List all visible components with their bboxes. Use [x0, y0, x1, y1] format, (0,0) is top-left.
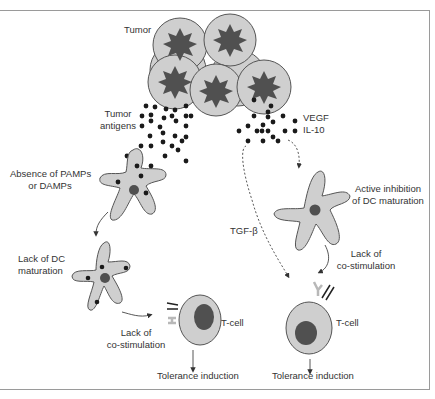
- label-lack-dc-line1: Lack of DC: [18, 253, 65, 265]
- label-vegf-il10: VEGF IL-10: [303, 112, 329, 136]
- label-tumor-antigens: Tumor antigens: [96, 108, 140, 132]
- dendritic-cell-lower-left: [72, 242, 130, 310]
- label-tcell-right: T-cell: [336, 317, 359, 329]
- label-tumor: Tumor: [124, 24, 151, 36]
- label-active-inhib-line2: of DC maturation: [350, 195, 426, 207]
- label-lack-costim-left-line2: co-stimulation: [104, 339, 168, 351]
- label-tumor-antigens-line1: Tumor: [96, 108, 140, 120]
- dendritic-cell-upper-left: [100, 149, 166, 220]
- t-cell-right: [286, 282, 334, 354]
- label-tgf-beta: TGF-β: [230, 225, 258, 237]
- label-tcell-left: T-cell: [221, 317, 244, 329]
- label-lack-dc-maturation: Lack of DC maturation: [18, 253, 65, 277]
- label-lack-costim-left-line1: Lack of: [104, 327, 168, 339]
- label-lack-costim-right-line2: co-stimulation: [333, 260, 399, 272]
- label-active-inhibition: Active inhibition of DC maturation: [350, 183, 426, 207]
- label-tumor-antigens-line2: antigens: [96, 120, 140, 132]
- t-cell-left: [167, 295, 221, 345]
- label-vegf: VEGF: [303, 112, 329, 124]
- label-lack-costim-right-line1: Lack of: [333, 248, 399, 260]
- label-tolerance-right: Tolerance induction: [272, 370, 354, 382]
- dendritic-cell-right: [274, 171, 350, 250]
- label-active-inhib-line1: Active inhibition: [350, 183, 426, 195]
- label-lack-costim-right: Lack of co-stimulation: [333, 248, 399, 272]
- label-absence-pamps: Absence of PAMPs or DAMPs: [10, 168, 90, 192]
- label-tolerance-left: Tolerance induction: [157, 370, 239, 382]
- label-absence-line2: or DAMPs: [10, 180, 90, 192]
- label-lack-costim-left: Lack of co-stimulation: [104, 327, 168, 351]
- label-lack-dc-line2: maturation: [18, 265, 65, 277]
- label-absence-line1: Absence of PAMPs: [10, 168, 90, 180]
- label-il10: IL-10: [303, 124, 329, 136]
